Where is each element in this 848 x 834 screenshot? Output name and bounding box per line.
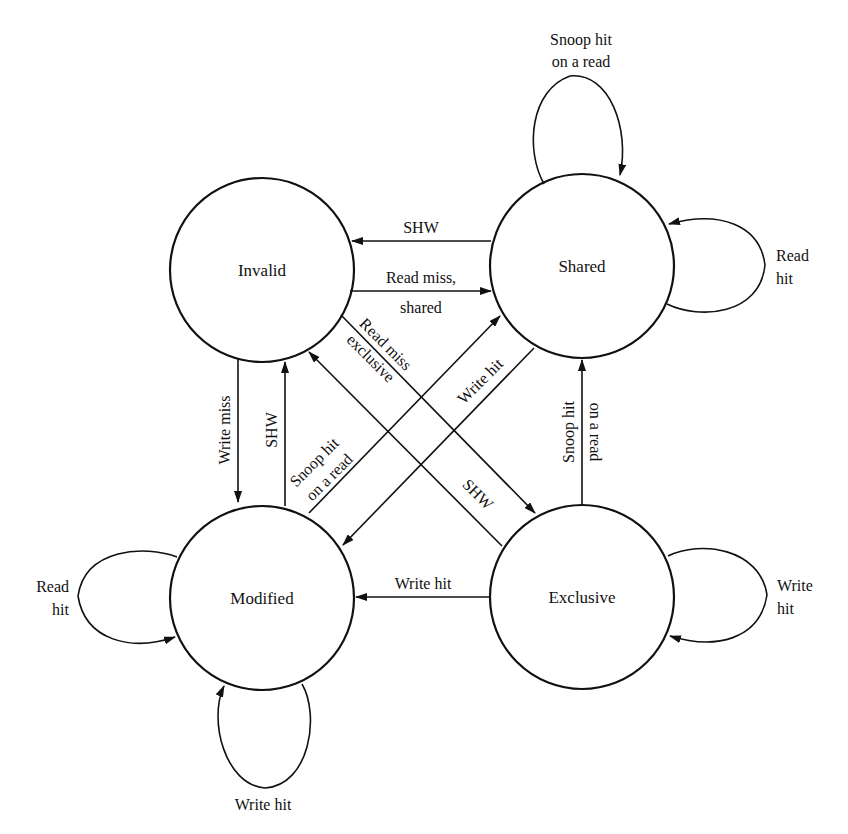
mesi-state-diagram: Invalid Shared Modified Exclusive SHW Re… xyxy=(0,0,848,834)
state-invalid: Invalid xyxy=(170,178,354,362)
loop-exclusive-right: Write hit xyxy=(668,548,813,641)
edge-label-shw-left: SHW xyxy=(263,411,280,447)
loop-arrow-shared-read-hit xyxy=(667,219,765,312)
loop-label-shared-top-line1: Snoop hit xyxy=(550,31,612,49)
loop-label-modified-left-line1: Read xyxy=(36,578,69,595)
edge-label-read-miss-line2: shared xyxy=(400,299,442,316)
loop-arrow-shared-snoop-hit xyxy=(533,76,622,184)
edge-shared-to-modified: Write hit xyxy=(343,348,534,545)
state-exclusive: Exclusive xyxy=(490,505,674,689)
state-shared-label: Shared xyxy=(558,257,606,276)
edge-label-shw-top: SHW xyxy=(403,219,439,236)
loop-modified-bottom: Write hit xyxy=(218,684,310,813)
loop-label-exclusive-right-line2: hit xyxy=(777,600,794,617)
loop-shared-right: Read hit xyxy=(667,219,809,312)
loop-arrow-modified-read-hit xyxy=(78,551,177,643)
edge-exclusive-to-shared: Snoop hit on a read xyxy=(560,360,604,505)
edge-modified-to-invalid: SHW xyxy=(263,362,285,506)
arrow-write-hit-shared-modified xyxy=(343,348,534,545)
state-modified: Modified xyxy=(170,506,354,690)
loop-label-shared-right-line2: hit xyxy=(776,270,793,287)
edge-label-snoop-hit-right-line2: on a read xyxy=(587,403,604,462)
state-modified-label: Modified xyxy=(230,589,294,608)
loop-arrow-modified-write-hit xyxy=(218,684,310,788)
edge-label-read-miss-line1: Read miss, xyxy=(386,269,456,286)
loop-label-modified-bottom: Write hit xyxy=(235,796,292,813)
loop-label-shared-top-line2: on a read xyxy=(552,53,611,70)
state-shared: Shared xyxy=(490,174,674,358)
edge-label-snoop-hit-right-line1: Snoop hit xyxy=(560,401,578,463)
edge-label-write-hit-bottom: Write hit xyxy=(395,575,452,592)
loop-label-modified-left-line2: hit xyxy=(52,601,69,618)
edge-invalid-to-modified: Write miss xyxy=(216,359,238,502)
edge-shared-to-invalid: SHW xyxy=(352,219,491,241)
loop-label-shared-right-line1: Read xyxy=(776,247,809,264)
edge-invalid-to-shared: Read miss, shared xyxy=(350,269,491,316)
loop-label-exclusive-right-line1: Write xyxy=(777,577,813,594)
edge-label-write-miss: Write miss xyxy=(216,395,233,464)
loop-shared-top: Snoop hit on a read xyxy=(533,31,622,184)
loop-modified-left: Read hit xyxy=(36,551,177,643)
state-exclusive-label: Exclusive xyxy=(548,588,615,607)
edge-label-write-hit-diagonal: Write hit xyxy=(454,355,506,407)
loop-arrow-exclusive-write-hit xyxy=(668,548,767,641)
edge-exclusive-to-modified: Write hit xyxy=(356,575,490,597)
state-invalid-label: Invalid xyxy=(238,261,287,280)
